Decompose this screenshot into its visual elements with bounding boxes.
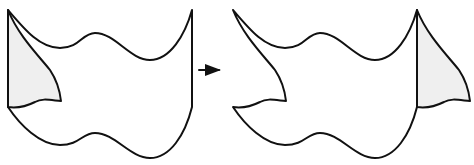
- transformation-diagram: [0, 0, 474, 165]
- diagram-canvas: [0, 0, 474, 165]
- shaded-piece-after: [417, 10, 470, 107]
- shape-after: [233, 10, 470, 158]
- shape-before: [8, 10, 192, 158]
- outline-after: [233, 10, 417, 158]
- shaded-piece-before: [8, 10, 61, 107]
